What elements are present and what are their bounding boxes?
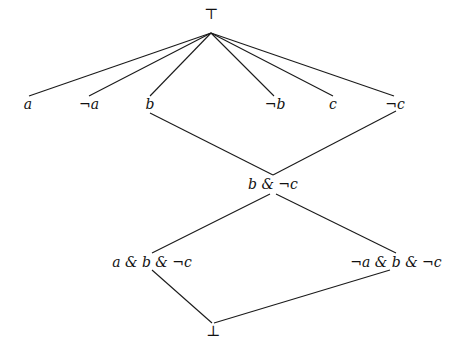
edge-top-a xyxy=(29,33,211,96)
edge-top-not-b xyxy=(211,33,274,96)
atom-not-c: ¬c xyxy=(385,97,405,111)
edge-right-bottom xyxy=(214,270,390,323)
edge-not-c-meet xyxy=(273,111,396,175)
edge-meet-left xyxy=(152,194,270,253)
top-node: ⊤ xyxy=(204,7,218,22)
atom-c: c xyxy=(329,97,337,111)
meet-node: b & ¬c xyxy=(248,177,298,191)
bottom-node: ⊥ xyxy=(206,324,220,339)
conjunction-left: a & b & ¬c xyxy=(112,255,192,269)
edge-top-b xyxy=(150,33,211,96)
atom-b: b xyxy=(146,97,155,111)
edge-top-not-c xyxy=(211,33,394,96)
atom-not-b: ¬b xyxy=(265,97,286,111)
atom-not-a: ¬a xyxy=(79,97,99,111)
edge-left-bottom xyxy=(152,270,212,323)
lattice-edges xyxy=(0,0,454,364)
conjunction-right: ¬a & b & ¬c xyxy=(350,255,441,269)
edge-meet-right xyxy=(276,194,396,253)
atom-a: a xyxy=(24,97,32,111)
edge-b-meet xyxy=(150,113,273,175)
edge-top-c xyxy=(211,33,333,96)
edge-top-not-a xyxy=(89,33,211,96)
